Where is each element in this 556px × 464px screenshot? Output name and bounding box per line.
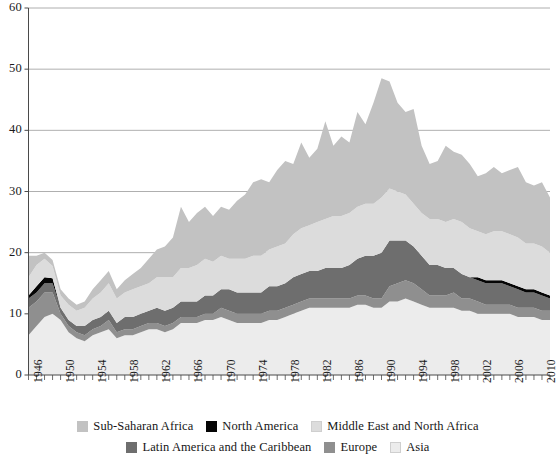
legend-color-swatch-icon [77,421,88,432]
y-axis-tick-label: 0 [0,368,22,381]
x-axis-tick-label: 1974 [258,359,270,383]
legend-row-secondary: Latin America and the CaribbeanEuropeAsi… [0,437,556,458]
stacked-area-chart: 0102030405060 19461950195419581962196619… [0,0,556,464]
legend-item[interactable]: Middle East and North Africa [311,420,478,433]
legend-color-swatch-icon [206,421,217,432]
legend-color-swatch-icon [324,442,335,453]
x-axis-tick-label: 1954 [97,359,109,383]
x-axis-tick-label: 1994 [418,359,430,383]
x-axis-tick-label: 1986 [354,359,366,383]
y-axis-tick-label: 20 [0,246,22,259]
chart-plot-area [0,0,556,464]
x-axis-tick-label: 1982 [322,359,334,383]
x-axis-tick-label: 1990 [386,359,398,383]
footer-clipped-text [6,459,306,464]
y-axis-tick-label: 30 [0,185,22,198]
legend-color-swatch-icon [126,442,137,453]
x-axis-tick-label: 1998 [450,359,462,383]
legend-label: Latin America and the Caribbean [142,441,311,454]
y-axis-tick-label: 60 [0,1,22,14]
x-axis-tick-label: 1970 [226,359,238,383]
legend-label: Middle East and North Africa [327,420,478,433]
x-axis-tick-label: 1946 [33,359,45,383]
legend-color-swatch-icon [311,421,322,432]
legend-item[interactable]: Asia [390,441,429,454]
chart-legend: Sub-Saharan AfricaNorth AmericaMiddle Ea… [0,416,556,458]
legend-label: Europe [340,441,377,454]
y-axis-tick-label: 10 [0,307,22,320]
x-axis-tick-label: 1962 [161,359,173,383]
x-axis-tick-label: 2002 [482,359,494,383]
x-axis-tick-label: 1966 [193,359,205,383]
legend-item[interactable]: Europe [324,441,377,454]
legend-item[interactable]: Latin America and the Caribbean [126,441,311,454]
x-axis-tick-label: 1950 [65,359,77,383]
legend-item[interactable]: North America [206,420,298,433]
legend-item[interactable]: Sub-Saharan Africa [77,420,193,433]
legend-label: Sub-Saharan Africa [93,420,193,433]
x-axis-tick-label: 2006 [514,359,526,383]
y-axis-tick-label: 50 [0,62,22,75]
legend-label: Asia [406,441,429,454]
y-axis-tick-label: 40 [0,123,22,136]
legend-color-swatch-icon [390,442,401,453]
legend-label: North America [222,420,298,433]
x-axis-tick-label: 1978 [290,359,302,383]
x-axis-tick-label: 2010 [546,359,556,383]
legend-row-primary: Sub-Saharan AfricaNorth AmericaMiddle Ea… [0,416,556,437]
x-axis-tick-label: 1958 [129,359,141,383]
area-series-group [29,78,551,375]
